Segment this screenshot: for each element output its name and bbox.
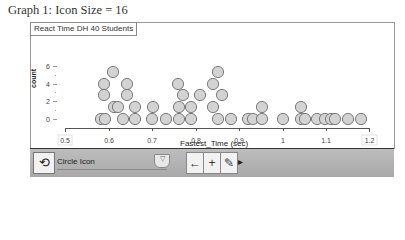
data-point-circle[interactable] (129, 113, 140, 124)
refresh-icon: ⟲ (39, 155, 50, 170)
left-arrow-button[interactable]: ← (186, 152, 204, 174)
data-point-circle[interactable] (107, 66, 118, 77)
data-point-circle[interactable] (299, 113, 310, 124)
refresh-button[interactable]: ⟲ (33, 152, 55, 174)
data-point-circle[interactable] (225, 113, 236, 124)
icon-type-value: Circle Icon (57, 157, 95, 166)
y-tick-label: 2 (46, 98, 50, 105)
y-axis: 0 2 4 6 (46, 63, 57, 123)
data-point-circle[interactable] (177, 89, 188, 100)
data-point-circle[interactable] (147, 101, 158, 112)
data-point-circle[interactable] (329, 113, 340, 124)
plus-icon: + (208, 156, 215, 170)
y-axis-label: count (30, 69, 37, 88)
y-tick-label: 6 (46, 63, 50, 70)
data-point-circle[interactable] (277, 113, 288, 124)
data-point-circle[interactable] (173, 101, 184, 112)
data-point-circle[interactable] (146, 113, 157, 124)
x-tick-label: 1.1 (321, 137, 331, 144)
data-point-circle[interactable] (173, 113, 184, 124)
x-tick-label: 1 (281, 137, 285, 144)
data-point-circle[interactable] (355, 113, 366, 124)
data-point-circle[interactable] (256, 101, 267, 112)
data-point-circle[interactable] (342, 113, 353, 124)
data-point-circle[interactable] (216, 89, 227, 100)
x-axis-label: Fastest_Time (sec) (180, 139, 248, 148)
data-point-circle[interactable] (112, 101, 123, 112)
data-point-circle[interactable] (129, 101, 140, 112)
more-button[interactable]: ▸ (238, 156, 243, 167)
data-point-circle[interactable] (295, 101, 306, 112)
add-button[interactable]: + (203, 152, 221, 174)
data-point-circle[interactable] (185, 113, 196, 124)
icon-size-slider[interactable]: ▽ (154, 154, 170, 168)
x-tick-label: 0.6 (104, 137, 114, 144)
data-point-circle[interactable] (185, 101, 196, 112)
y-tick-label: 0 (46, 116, 50, 123)
y-tick-label: 4 (46, 81, 50, 88)
data-point-circle[interactable] (117, 113, 128, 124)
icon-type-select[interactable]: Circle Icon ▼ (57, 155, 167, 170)
data-point-circle[interactable] (99, 113, 110, 124)
x-tick-label: 1.2 (365, 137, 375, 144)
data-point-circle[interactable] (212, 113, 223, 124)
pencil-icon: ✎ (224, 156, 234, 170)
data-point-circle[interactable] (121, 89, 132, 100)
data-point-circle[interactable] (98, 89, 109, 100)
data-point-circle[interactable] (256, 113, 267, 124)
data-point-circle[interactable] (212, 66, 223, 77)
x-tick-label: 0.7 (147, 137, 157, 144)
arrow-left-icon: ← (189, 156, 201, 170)
data-point-circle[interactable] (121, 78, 132, 89)
data-point-circle[interactable] (207, 78, 218, 89)
data-point-circle[interactable] (160, 113, 171, 124)
data-point-circle[interactable] (172, 78, 183, 89)
pencil-button[interactable]: ✎ (220, 152, 238, 174)
graph-toolbar: ⟲ Circle Icon ▼ ▽ ← + ✎ ▸ (30, 148, 394, 177)
data-point-circle[interactable] (98, 78, 109, 89)
x-tick-label: 0.5 (60, 137, 70, 144)
data-point-circle[interactable] (194, 89, 205, 100)
chevron-right-icon: ▸ (238, 156, 243, 167)
data-points[interactable] (95, 66, 366, 124)
data-point-circle[interactable] (207, 101, 218, 112)
